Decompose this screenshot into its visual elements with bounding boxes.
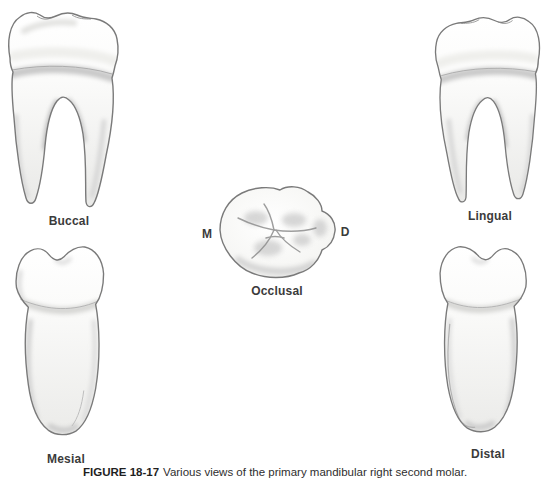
occlusal-view-label: Occlusal bbox=[234, 285, 320, 298]
figure-caption-number: FIGURE 18-17 bbox=[83, 466, 159, 478]
distal-marker: D bbox=[337, 226, 353, 239]
mesial-view-label: Mesial bbox=[26, 453, 106, 466]
buccal-view-illustration bbox=[4, 6, 128, 212]
figure-caption: FIGURE 18-17Various views of the primary… bbox=[83, 466, 543, 478]
figure-18-17: Buccal Lingual bbox=[0, 0, 549, 478]
buccal-view-label: Buccal bbox=[28, 215, 110, 228]
distal-view-illustration bbox=[430, 242, 532, 435]
mesial-view-illustration bbox=[14, 242, 110, 438]
figure-caption-text: Various views of the primary mandibular … bbox=[163, 466, 467, 478]
mesial-marker: M bbox=[199, 228, 215, 241]
occlusal-view-illustration bbox=[216, 180, 344, 286]
lingual-view-label: Lingual bbox=[448, 210, 532, 223]
lingual-view-illustration bbox=[426, 10, 544, 208]
distal-view-label: Distal bbox=[448, 448, 528, 461]
